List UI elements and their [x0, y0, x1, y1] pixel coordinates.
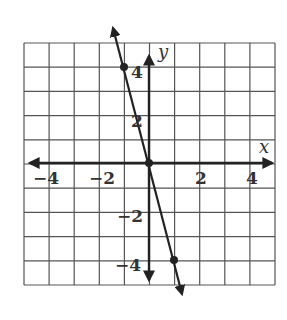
y-tick-neg4: −4	[115, 255, 141, 275]
y-axis-label: y	[157, 41, 169, 62]
y-tick-2: 2	[131, 111, 143, 131]
point-origin	[145, 159, 153, 167]
x-tick-2: 2	[195, 168, 207, 188]
y-tick-neg2: −2	[117, 206, 143, 226]
x-tick-neg4: −4	[33, 168, 59, 188]
y-tick-4: 4	[131, 62, 143, 82]
x-tick-neg2: −2	[89, 168, 115, 188]
x-axis-label: x	[259, 136, 269, 157]
coordinate-plane: x y −4 −2 2 4 4 2 −2 −4	[0, 0, 287, 320]
point-neg1-4	[120, 63, 128, 71]
x-tick-4: 4	[246, 168, 258, 188]
point-1-neg4	[170, 256, 178, 264]
